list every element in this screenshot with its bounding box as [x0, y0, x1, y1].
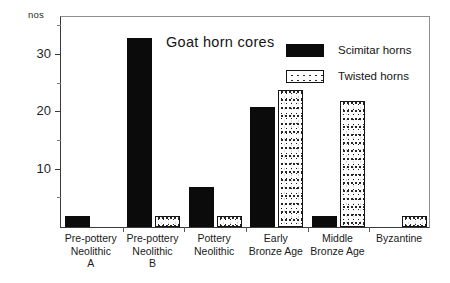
legend-label-scimitar: Scimitar horns	[338, 44, 412, 56]
bar-scimitar-horns	[189, 187, 214, 227]
y-tick-major: 20	[55, 111, 61, 112]
y-tick-major: 10	[55, 169, 61, 170]
category-label-line: Byzantine	[368, 232, 430, 245]
category-label-line: A	[60, 257, 122, 270]
legend-item-scimitar: Scimitar horns	[286, 39, 450, 61]
category-label-line: Early	[245, 232, 307, 245]
category-label-line: B	[122, 257, 184, 270]
category-label-line: Pottery	[183, 232, 245, 245]
x-axis-category-label: PotteryNeolithic	[183, 232, 245, 257]
chart-legend: Scimitar horns Twisted horns	[286, 39, 450, 91]
goat-horn-cores-bar-chart: nos 102030 Scimitar horns Twisted horns …	[0, 0, 450, 283]
bar-scimitar-horns	[312, 216, 337, 227]
bar-twisted-horns	[217, 216, 242, 227]
y-tick-minor	[57, 83, 61, 84]
bar-twisted-horns	[402, 216, 427, 227]
x-axis-category-label: Byzantine	[368, 232, 430, 245]
x-axis-category-label: EarlyBronze Age	[245, 232, 307, 257]
category-label-line: Pre-pottery	[122, 232, 184, 245]
bar-scimitar-horns	[250, 107, 275, 227]
category-label-line: Neolithic	[183, 245, 245, 258]
category-label-line: Neolithic	[60, 245, 122, 258]
y-tick-major: 30	[55, 54, 61, 55]
bar-twisted-horns	[155, 216, 180, 227]
x-axis-category-label: MiddleBronze Age	[307, 232, 369, 257]
bar-twisted-horns	[340, 101, 365, 227]
y-axis-unit-label: nos	[28, 9, 44, 20]
category-label-line: Bronze Age	[245, 245, 307, 258]
category-label-line: Bronze Age	[307, 245, 369, 258]
legend-item-twisted: Twisted horns	[286, 65, 450, 87]
y-tick-minor	[57, 25, 61, 26]
bar-twisted-horns	[278, 90, 303, 228]
y-tick-label: 10	[37, 161, 51, 176]
bar-scimitar-horns	[65, 216, 90, 227]
y-tick-minor	[57, 197, 61, 198]
category-label-line: Pre-pottery	[60, 232, 122, 245]
y-tick-minor	[57, 140, 61, 141]
chart-title: Goat horn cores	[166, 34, 274, 50]
x-axis-category-label: Pre-potteryNeolithicA	[60, 232, 122, 270]
category-label-line: Neolithic	[122, 245, 184, 258]
legend-swatch-twisted-icon	[286, 70, 324, 83]
bar-scimitar-horns	[127, 38, 152, 227]
legend-swatch-scimitar-icon	[286, 44, 324, 57]
category-label-line: Middle	[307, 232, 369, 245]
legend-label-twisted: Twisted horns	[338, 70, 409, 82]
x-axis-category-label: Pre-potteryNeolithicB	[122, 232, 184, 270]
y-tick-label: 30	[37, 46, 51, 61]
y-tick-label: 20	[37, 103, 51, 118]
